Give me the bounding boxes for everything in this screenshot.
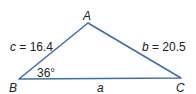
side-a-label: a (97, 82, 104, 94)
side-b-label: b = 20.5 (142, 41, 186, 53)
vertex-a-label: A (83, 10, 91, 22)
angle-b-label: 36° (37, 67, 55, 79)
vertex-b-label: B (9, 82, 17, 94)
vertex-c-label: C (176, 82, 185, 94)
side-c-label: c = 16.4 (10, 41, 53, 53)
